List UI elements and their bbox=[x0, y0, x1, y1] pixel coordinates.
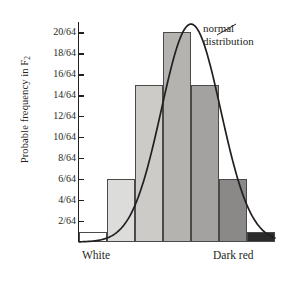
y-axis-tick-label: 14/64 bbox=[53, 90, 76, 100]
bar-4 bbox=[163, 32, 191, 242]
bar-1 bbox=[79, 232, 107, 242]
y-axis-tick-label: 6/64 bbox=[58, 174, 76, 184]
y-axis-tick-labels: 2/644/646/648/6410/6412/6414/6416/6418/6… bbox=[28, 0, 76, 286]
x-axis-label-dark-red: Dark red bbox=[213, 249, 254, 261]
y-axis-tick-label: 2/64 bbox=[58, 216, 76, 226]
y-axis-tick-label: 20/64 bbox=[53, 27, 76, 37]
bar-3 bbox=[135, 85, 163, 242]
annotation-line-1: normal bbox=[203, 22, 254, 35]
x-axis-label-white: White bbox=[82, 249, 110, 261]
bar-7 bbox=[247, 232, 275, 242]
y-axis-tick-label: 12/64 bbox=[53, 111, 76, 121]
y-axis-tick-label: 16/64 bbox=[53, 69, 76, 79]
y-axis-tick-label: 4/64 bbox=[58, 195, 76, 205]
bar-series bbox=[79, 22, 275, 242]
bar-2 bbox=[107, 179, 135, 242]
chart-figure: Probable frequency in F2 2/644/646/648/6… bbox=[0, 0, 295, 286]
y-axis-tick-label: 10/64 bbox=[53, 132, 76, 142]
bar-5 bbox=[191, 85, 219, 242]
bar-6 bbox=[219, 179, 247, 242]
annotation-line-2: distribution bbox=[203, 35, 254, 48]
y-axis-tick-label: 18/64 bbox=[53, 48, 76, 58]
y-axis-tick-label: 8/64 bbox=[58, 153, 76, 163]
normal-distribution-annotation: normal distribution bbox=[203, 22, 254, 48]
